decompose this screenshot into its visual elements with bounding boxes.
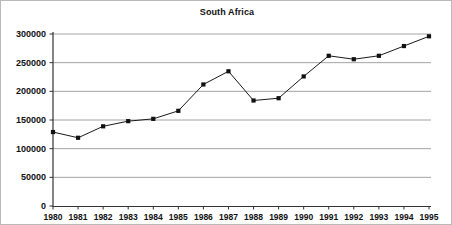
data-point-marker (327, 54, 331, 58)
data-point-markers (51, 34, 431, 140)
x-tick-label: 1993 (369, 212, 388, 222)
data-point-marker (352, 57, 356, 61)
y-tick-label: 150000 (16, 115, 46, 125)
line-chart-plot (1, 1, 452, 225)
y-tick-label: 50000 (21, 172, 46, 182)
x-tick-label: 1982 (94, 212, 113, 222)
x-tick-label: 1986 (194, 212, 213, 222)
data-point-marker (377, 54, 381, 58)
y-tick-label: 200000 (16, 86, 46, 96)
data-point-marker (251, 98, 255, 102)
x-tick-label: 1995 (420, 212, 439, 222)
data-point-marker (126, 119, 130, 123)
x-tick-label: 1985 (169, 212, 188, 222)
gridlines-group (53, 34, 431, 177)
data-point-marker (51, 130, 55, 134)
data-point-marker (151, 117, 155, 121)
data-point-marker (201, 82, 205, 86)
axes-group (53, 32, 431, 207)
y-tick-label: 250000 (16, 58, 46, 68)
x-tick-label: 1994 (394, 212, 413, 222)
data-series-line (53, 36, 429, 137)
data-point-marker (101, 124, 105, 128)
data-point-marker (277, 96, 281, 100)
data-point-marker (76, 136, 80, 140)
x-tick-label: 1990 (294, 212, 313, 222)
data-point-marker (226, 69, 230, 73)
x-tick-label: 1984 (144, 212, 163, 222)
y-tick-label: 100000 (16, 144, 46, 154)
x-tick-label: 1981 (69, 212, 88, 222)
x-tick-label: 1992 (344, 212, 363, 222)
chart-figure: South Africa 050000100000150000200000250… (0, 0, 452, 225)
data-point-marker (402, 44, 406, 48)
data-point-marker (427, 34, 431, 38)
x-tick-label: 1980 (44, 212, 63, 222)
data-point-marker (302, 74, 306, 78)
y-tick-label: 0 (41, 201, 46, 211)
x-tick-label: 1991 (319, 212, 338, 222)
y-tick-label: 300000 (16, 29, 46, 39)
data-point-marker (176, 109, 180, 113)
x-tick-label: 1988 (244, 212, 263, 222)
x-tick-label: 1987 (219, 212, 238, 222)
x-tick-label: 1989 (269, 212, 288, 222)
x-tick-label: 1983 (119, 212, 138, 222)
